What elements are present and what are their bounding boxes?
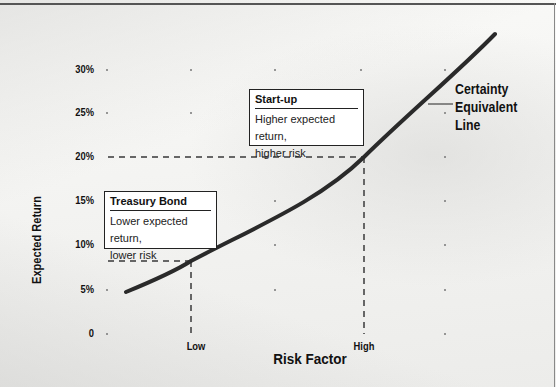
ytick-5: 5% — [60, 283, 94, 295]
y-axis-label: Expected Return — [29, 196, 44, 284]
ytick-25: 25% — [60, 106, 94, 118]
x-axis-label: Risk Factor — [273, 350, 347, 367]
curve-label-line2: Equivalent — [455, 98, 517, 116]
ytick-30: 30% — [60, 63, 94, 75]
startup-line2: higher risk — [255, 145, 358, 162]
startup-title: Start-up — [255, 93, 358, 109]
treasury-bond-line2: lower risk — [110, 247, 211, 264]
treasury-bond-title: Treasury Bond — [110, 195, 211, 211]
xtick-high: High — [354, 340, 375, 352]
ytick-0: 0 — [60, 327, 94, 339]
startup-line1: Higher expected return, — [255, 111, 358, 145]
treasury-bond-callout: Treasury Bond Lower expected return, low… — [104, 191, 217, 249]
ytick-20: 20% — [60, 150, 94, 162]
certainty-equivalent-label: Certainty Equivalent Line — [455, 80, 517, 134]
curve-label-line3: Line — [455, 116, 517, 134]
xtick-low: Low — [187, 340, 206, 352]
treasury-bond-line1: Lower expected return, — [110, 213, 211, 247]
ytick-10: 10% — [60, 238, 94, 250]
ytick-15: 15% — [60, 194, 94, 206]
startup-callout: Start-up Higher expected return, higher … — [249, 89, 364, 146]
curve-label-line1: Certainty — [455, 80, 517, 98]
